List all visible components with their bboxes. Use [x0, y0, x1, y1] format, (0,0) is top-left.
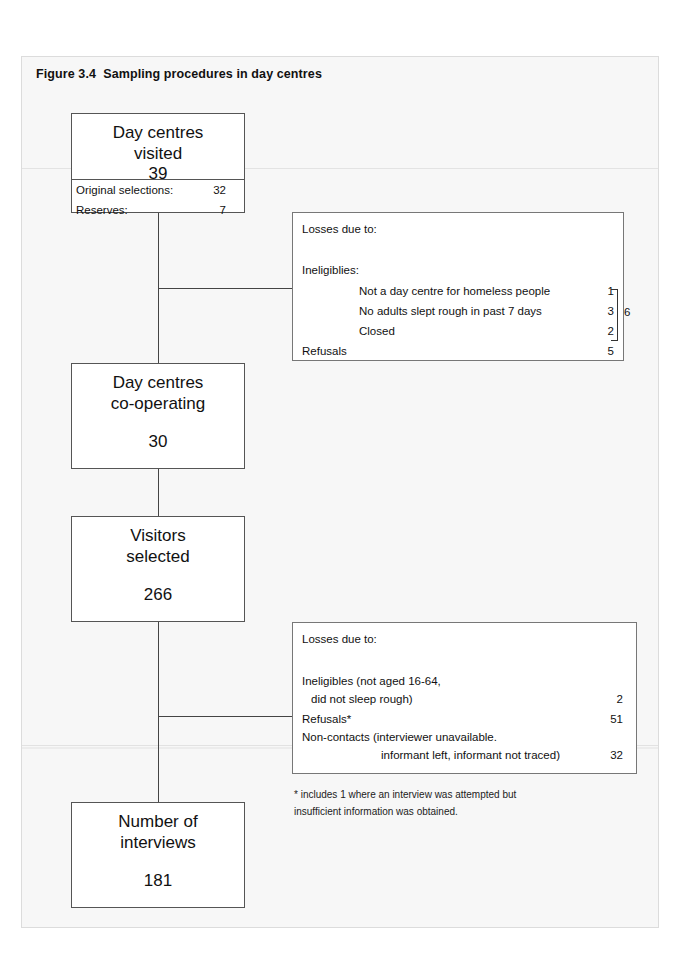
- losses-visitors-row: Ineligibles (not aged 16-64,: [302, 675, 628, 691]
- losses-box-day-centres: Losses due to: Ineligiblies: Not a day c…: [292, 212, 624, 361]
- losses-visitors-row-value: 2: [607, 693, 623, 705]
- losses-visitors-row: informant left, informant not traced) 32: [302, 749, 628, 765]
- subrow-original-label: Original selections:: [76, 184, 173, 196]
- node-visited-line2: visited: [72, 143, 244, 164]
- losses-centres-row-label: Closed: [359, 325, 395, 337]
- node-visited-number: 39: [72, 164, 244, 184]
- losses-visitors-row-label: Ineligibles (not aged 16-64,: [302, 675, 441, 687]
- node-visited-divider: [72, 179, 244, 180]
- node-visitors-selected: Visitors selected 266: [71, 516, 245, 622]
- connector-branch-to-losses-centres: [158, 288, 293, 289]
- losses-centres-row-value: 5: [598, 345, 614, 357]
- losses-centres-row: Refusals 5: [302, 345, 615, 361]
- connector-branch-to-losses-visitors: [158, 716, 293, 717]
- losses-centres-row: Closed 2: [302, 325, 615, 341]
- losses-centres-row: No adults slept rough in past 7 days 3: [302, 305, 615, 321]
- bracket-icon: [611, 289, 618, 341]
- losses-centres-bracket-total: 6: [624, 306, 630, 318]
- figure-panel: Figure 3.4 Sampling procedures in day ce…: [21, 56, 659, 928]
- losses-visitors-heading: Losses due to:: [302, 633, 377, 645]
- subrow-original-value: 32: [213, 184, 226, 196]
- losses-visitors-row-label: did not sleep rough): [311, 693, 413, 705]
- node-visited-subrow-reserves: Reserves: 7: [76, 204, 236, 219]
- footnote-line2: insufficient information was obtained.: [294, 803, 644, 820]
- losses-visitors-row-label: Non-contacts (interviewer unavailable.: [302, 731, 497, 743]
- node-cooperating-number: 30: [72, 432, 244, 452]
- connector-visitors-to-interviews: [158, 622, 159, 802]
- node-interviews-number: 181: [72, 871, 244, 891]
- footnote-line1: * includes 1 where an interview was atte…: [294, 786, 644, 803]
- figure-title: Figure 3.4 Sampling procedures in day ce…: [36, 67, 322, 81]
- node-cooperating-line1: Day centres: [72, 372, 244, 393]
- connector-cooperating-to-visitors: [158, 469, 159, 516]
- losses-visitors-row-value: 51: [607, 713, 623, 725]
- losses-visitors-row-label: informant left, informant not traced): [381, 749, 560, 761]
- losses-centres-row-label: Refusals: [302, 345, 347, 357]
- losses-visitors-row: Non-contacts (interviewer unavailable.: [302, 731, 628, 747]
- losses-centres-subheading: Ineligiblies:: [302, 264, 359, 276]
- losses-box-visitors: Losses due to: Ineligibles (not aged 16-…: [292, 622, 637, 774]
- node-visited-subrow-original: Original selections: 32: [76, 184, 236, 199]
- losses-centres-heading: Losses due to:: [302, 223, 377, 235]
- node-visitors-line1: Visitors: [72, 525, 244, 546]
- node-number-of-interviews: Number of interviews 181: [71, 802, 245, 908]
- losses-visitors-row-value: 32: [607, 749, 623, 761]
- subrow-reserves-value: 7: [220, 204, 226, 216]
- node-day-centres-cooperating: Day centres co-operating 30: [71, 363, 245, 469]
- losses-centres-row-label: Not a day centre for homeless people: [359, 285, 550, 297]
- losses-visitors-row: did not sleep rough) 2: [302, 693, 628, 709]
- losses-centres-row: Not a day centre for homeless people 1: [302, 285, 615, 301]
- node-visitors-number: 266: [72, 585, 244, 605]
- node-interviews-line2: interviews: [72, 832, 244, 853]
- losses-centres-row-label: No adults slept rough in past 7 days: [359, 305, 542, 317]
- node-visitors-line2: selected: [72, 546, 244, 567]
- node-cooperating-line2: co-operating: [72, 393, 244, 414]
- node-interviews-line1: Number of: [72, 811, 244, 832]
- subrow-reserves-label: Reserves:: [76, 204, 128, 216]
- node-day-centres-visited: Day centres visited 39 Original selectio…: [71, 113, 245, 213]
- losses-visitors-row-label: Refusals*: [302, 713, 351, 725]
- losses-visitors-row: Refusals* 51: [302, 713, 628, 729]
- node-visited-line1: Day centres: [72, 122, 244, 143]
- footnote: * includes 1 where an interview was atte…: [294, 786, 644, 820]
